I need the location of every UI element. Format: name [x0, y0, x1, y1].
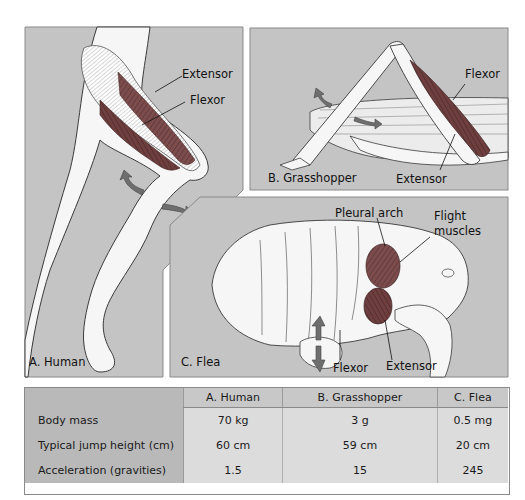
- cell-grasshopper-body-mass: 3 g: [283, 408, 438, 434]
- label-human-flexor: Flexor: [190, 93, 225, 107]
- label-flea-pleural-arch: Pleural arch: [335, 206, 403, 220]
- table-header-human: A. Human: [184, 388, 283, 408]
- label-grasshopper-extensor: Extensor: [396, 172, 447, 186]
- jumping-muscles-figure: Extensor Flexor A. Human Flexor Extensor…: [0, 0, 525, 380]
- cell-human-acceleration: 1.5: [184, 458, 283, 483]
- cell-flea-jump-height: 20 cm: [437, 433, 508, 458]
- table-header-flea: C. Flea: [437, 388, 508, 408]
- table-header-blank: [25, 388, 184, 408]
- label-human-extensor: Extensor: [182, 67, 233, 81]
- panel-grasshopper: [250, 28, 508, 190]
- cell-human-body-mass: 70 kg: [184, 408, 283, 434]
- panel-label-human: A. Human: [29, 355, 85, 369]
- figure-illustration: [0, 0, 525, 380]
- cell-grasshopper-acceleration: 15: [283, 458, 438, 483]
- row-label-acceleration: Acceleration (gravities): [25, 458, 184, 483]
- table-row: Acceleration (gravities) 1.5 15 245: [25, 458, 508, 483]
- cell-flea-body-mass: 0.5 mg: [437, 408, 508, 434]
- cell-grasshopper-jump-height: 59 cm: [283, 433, 438, 458]
- jump-comparison-table: A. Human B. Grasshopper C. Flea Body mas…: [25, 388, 508, 483]
- table-row: Typical jump height (cm) 60 cm 59 cm 20 …: [25, 433, 508, 458]
- row-label-jump-height: Typical jump height (cm): [25, 433, 184, 458]
- label-flea-flexor: Flexor: [333, 361, 368, 375]
- panel-label-grasshopper: B. Grasshopper: [268, 171, 357, 185]
- cell-flea-acceleration: 245: [437, 458, 508, 483]
- label-flea-muscles: muscles: [434, 224, 481, 238]
- table-header-grasshopper: B. Grasshopper: [283, 388, 438, 408]
- label-flea-extensor: Extensor: [386, 359, 437, 373]
- cell-human-jump-height: 60 cm: [184, 433, 283, 458]
- panel-label-flea: C. Flea: [181, 355, 220, 369]
- label-flea-flight: Flight: [434, 209, 466, 223]
- table-row: Body mass 70 kg 3 g 0.5 mg: [25, 408, 508, 434]
- table-header-row: A. Human B. Grasshopper C. Flea: [25, 388, 508, 408]
- label-grasshopper-flexor: Flexor: [465, 67, 500, 81]
- row-label-body-mass: Body mass: [25, 408, 184, 434]
